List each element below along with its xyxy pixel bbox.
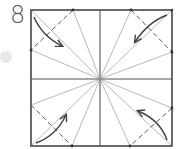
radial-crease-top-edge-left-point (73, 10, 100, 79)
fold-arrow-top-left (34, 17, 62, 46)
origami-diagram (0, 0, 183, 149)
radial-crease-left-edge-upper-point (31, 50, 100, 79)
dot-left-upper (30, 49, 33, 52)
radial-crease-top-left-corner (31, 10, 100, 79)
radial-crease-bottom-right-corner (100, 79, 172, 146)
radial-crease-bottom-left-corner (31, 79, 100, 146)
fold-arrow-bottom-left (36, 115, 66, 143)
dot-right-upper (171, 51, 174, 54)
dot-top-left (72, 9, 75, 12)
dot-bottom-right (129, 145, 132, 148)
dot-bottom-left (71, 145, 74, 148)
radial-crease-left-edge-lower-point (31, 79, 100, 105)
dot-right-lower (171, 107, 174, 110)
radial-crease-top-right-corner (100, 10, 172, 79)
dot-corner-top-right (171, 9, 173, 11)
smudge-mark (0, 51, 12, 63)
radial-crease-bottom-edge-left-point (72, 79, 100, 146)
dot-top-right (130, 9, 133, 12)
